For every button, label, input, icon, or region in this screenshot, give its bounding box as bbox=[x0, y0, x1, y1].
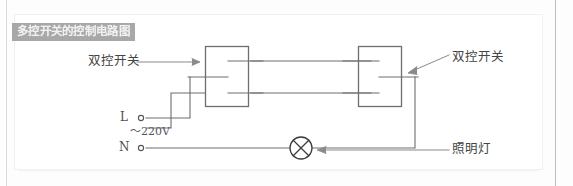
label-terminal-neutral: N bbox=[119, 141, 130, 154]
switch-left-lower-return-wire bbox=[147, 93, 205, 128]
diagram-page: 多控开关的控制电路图 bbox=[0, 0, 573, 186]
live-feed-wire bbox=[146, 77, 190, 118]
label-supply-voltage: ～220V bbox=[130, 125, 170, 138]
label-lamp: 照明灯 bbox=[452, 142, 491, 155]
circuit-schematic bbox=[0, 0, 573, 186]
lamp-return-wire bbox=[312, 77, 415, 148]
label-switch-right: 双控开关 bbox=[452, 50, 504, 63]
label-switch-left: 双控开关 bbox=[88, 54, 140, 67]
terminal-live-marker bbox=[138, 115, 143, 120]
label-terminal-live: L bbox=[120, 111, 128, 124]
callout-arrow-switch-right-head bbox=[408, 67, 417, 75]
callout-arrow-switch-left-head bbox=[192, 59, 200, 66]
terminal-neutral-marker bbox=[138, 145, 143, 150]
